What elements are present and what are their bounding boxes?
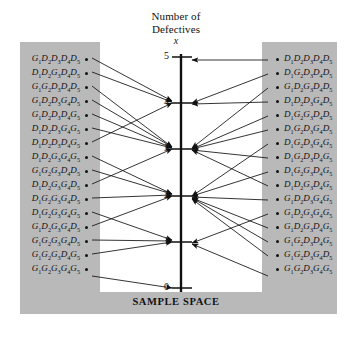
left-outcome-row: G1D2D3D4D5 [22,54,88,65]
right-outcome-label: G1G2D3D4G5 [284,236,332,245]
left-outcome-label: D1D2G3D4D5 [32,68,80,77]
left-outcome-row: D1G2G3G4G5 [22,208,88,219]
right-outcome-label: G1D2G3G4G5 [284,208,332,217]
left-outcome-row: G1D2D3G4D5 [22,96,88,107]
right-outcome-row: D1D2D3G4D5 [276,96,342,107]
left-outcome-row: D1G2G3G4D5 [22,194,88,205]
right-outcome-dot [276,128,279,131]
left-outcome-row: D1D2G3D4D5 [22,68,88,79]
right-outcome-dot [276,212,279,215]
right-outcome-dot [276,58,279,61]
left-outcome-label: G1G2G3D4G5 [32,250,80,259]
left-outcome-label: G1G2D3D4D5 [32,82,80,91]
right-outcome-row: D1D2D3D4D5 [276,54,342,65]
right-outcome-row: D1G2G3D4D5 [276,110,342,121]
left-outcome-dot [85,170,88,173]
left-outcome-label: G1D2D3G4D5 [32,96,80,105]
right-outcome-label: G1D2G3D4G5 [284,222,332,231]
right-outcome-dot [276,100,279,103]
left-outcome-row: D1D2G3G4G5 [22,152,88,163]
right-outcome-dot [276,72,279,75]
left-outcome-dot [85,268,88,271]
left-outcome-label: D1D2G3G4D5 [32,180,80,189]
left-outcome-dot [85,156,88,159]
left-outcome-label: D1G2G3G4G5 [32,208,80,217]
right-outcome-row: G1D2G3D4D5 [276,82,342,93]
left-outcome-label: G1D2D3D4G5 [32,110,80,119]
right-outcome-label: D1G2D3G4G5 [284,138,332,147]
left-outcome-dot [85,100,88,103]
right-outcome-label: G1G2D3G4D5 [284,250,332,259]
right-outcome-label: D1D2G3D4G5 [284,180,332,189]
right-outcome-dot [276,184,279,187]
tick-label-4: 4 [155,96,169,107]
left-outcome-dot [85,212,88,215]
left-outcome-label: G1G2G3G4G5 [32,264,80,273]
right-outcome-label: D1D2D3G4D5 [284,96,332,105]
right-outcome-row: G1D2G3D4G5 [276,222,342,233]
right-outcome-label: D1G2D3G4D5 [284,124,332,133]
tick-label-5: 5 [155,50,169,61]
left-outcome-dot [85,226,88,229]
right-outcome-row: G1G2D3G4G5 [276,264,342,275]
right-outcome-row: D1G2D3G4D5 [276,124,342,135]
right-outcome-dot [276,240,279,243]
right-outcome-dot [276,86,279,89]
right-outcome-dot [276,254,279,257]
left-outcome-arrows [92,58,172,288]
right-outcome-row: G1D2G3G4G5 [276,208,342,219]
right-outcome-label: D1G2G3D4D5 [284,110,332,119]
right-outcome-row: G1G2D3D4G5 [276,236,342,247]
left-outcome-row: G1G2G3D4G5 [22,250,88,261]
right-outcome-row: G1G2D3G4D5 [276,250,342,261]
left-outcome-label: D1D2D3G4G5 [32,124,80,133]
left-outcome-dot [85,86,88,89]
left-outcome-row: G1G2G3G4D5 [22,236,88,247]
right-outcome-row: D1G2G3D4G5 [276,166,342,177]
left-outcome-dot [85,58,88,61]
left-outcome-dot [85,128,88,131]
right-outcome-dot [276,170,279,173]
left-outcome-label: D1D2D3D4G5 [32,138,80,147]
left-outcome-label: G1G2G3G4D5 [32,236,80,245]
left-outcome-row: D1D2D3D4G5 [22,138,88,149]
right-outcome-row: D1D2G3D4G5 [276,180,342,191]
right-outcome-row: D1G2D3D4D5 [276,68,342,79]
sample-space-mapping-figure: Number of Defectives x SAMPLE SPACE [0,0,352,339]
right-outcome-label: G1D2D3G4G5 [284,194,332,203]
right-outcome-arrows [192,60,268,276]
left-outcome-row: D1D2G3G4D5 [22,180,88,191]
right-outcome-row: G1D2D3G4G5 [276,194,342,205]
right-outcome-label: D1G2D3D4D5 [284,68,332,77]
left-outcome-label: G1G2G3D4D5 [32,166,80,175]
right-outcome-dot [276,268,279,271]
left-outcome-row: G1G2D3D4D5 [22,82,88,93]
left-outcome-label: G1D2G3G4D5 [32,222,80,231]
left-outcome-dot [85,142,88,145]
right-outcome-dot [276,226,279,229]
left-outcome-label: D1D2G3G4G5 [32,152,80,161]
right-outcome-row: D1G2D3D4G5 [276,152,342,163]
left-outcome-row: G1D2G3G4D5 [22,222,88,233]
right-outcome-dot [276,156,279,159]
right-outcome-label: D1G2D3D4G5 [284,152,332,161]
tick-label-0: 0 [155,281,169,292]
left-outcome-dot [85,254,88,257]
left-outcome-label: D1G2G3G4D5 [32,194,80,203]
tick-label-1: 1 [155,235,169,246]
left-outcome-dot [85,240,88,243]
left-outcome-dot [85,114,88,117]
left-outcome-row: G1D2D3D4G5 [22,110,88,121]
left-outcome-dot [85,72,88,75]
left-outcome-row: G1G2G3G4G5 [22,264,88,275]
left-outcome-dot [85,184,88,187]
right-outcome-dot [276,198,279,201]
left-outcome-dot [85,198,88,201]
right-outcome-row: D1G2D3G4G5 [276,138,342,149]
left-outcome-row: G1G2G3D4D5 [22,166,88,177]
tick-label-3: 3 [155,142,169,153]
left-outcome-label: G1D2D3D4D5 [32,54,80,63]
right-outcome-label: D1D2D3D4D5 [284,54,332,63]
right-outcome-label: D1G2G3D4G5 [284,166,332,175]
right-outcome-dot [276,114,279,117]
